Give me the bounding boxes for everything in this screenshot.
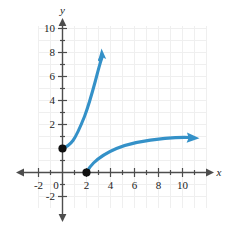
coordinate-plane-svg: -2 0 2 4 6 8 10 10 8 6 4 2 -2 y x [0, 0, 236, 234]
y-tick-label: 10 [44, 22, 56, 34]
y-tick-label: 4 [50, 94, 56, 106]
x-axis-label: x [216, 166, 222, 178]
chart-figure: -2 0 2 4 6 8 10 10 8 6 4 2 -2 y x [0, 0, 236, 234]
y-tick-label: 6 [50, 70, 56, 82]
chart-background [0, 0, 236, 234]
x-tick-label: 4 [108, 179, 114, 191]
endpoint-dot-square-root [82, 168, 90, 176]
x-tick-label: 10 [177, 179, 189, 191]
x-tick-label: 6 [132, 179, 138, 191]
y-tick-label: -2 [46, 190, 55, 202]
y-tick-label: 8 [50, 46, 56, 58]
y-tick-label: 2 [50, 118, 56, 130]
x-tick-label: -2 [34, 179, 43, 191]
x-tick-label: 8 [156, 179, 162, 191]
y-axis-label: y [59, 4, 65, 16]
x-tick-label: 2 [84, 179, 90, 191]
endpoint-dot-exponential [58, 144, 66, 152]
